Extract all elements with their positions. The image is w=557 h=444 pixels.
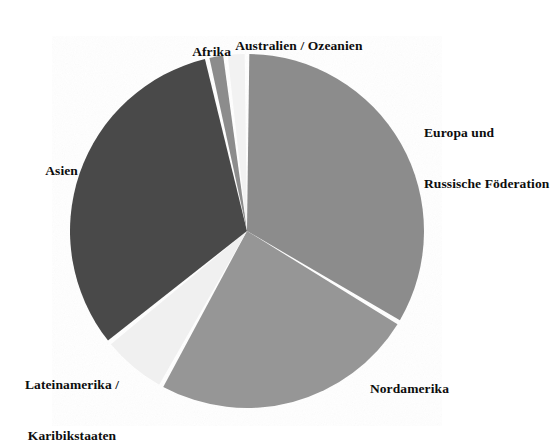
pie-label-nordamerika-text: Nordamerika xyxy=(370,381,449,396)
pie-label-europa-line-1: Europa und xyxy=(424,124,556,141)
pie-label-australien-ozeanien-text: Australien / Ozeanien xyxy=(235,38,362,53)
pie-label-lateinamerika-karibikstaaten: Lateinamerika / Karibikstaaten xyxy=(2,341,142,444)
pie-label-asien: Asien xyxy=(14,145,96,197)
pie-label-europa-russische-foederation: Europa und Russische Föderation xyxy=(424,89,556,227)
pie-label-nordamerika: Nordamerika xyxy=(356,363,476,415)
pie-label-australien-ozeanien: Australien / Ozeanien xyxy=(222,20,402,72)
pie-label-lateinamerika-line-2: Karibikstaaten xyxy=(2,427,142,444)
pie-label-europa-line-2: Russische Föderation xyxy=(424,175,556,192)
pie-label-asien-text: Asien xyxy=(45,163,78,178)
pie-label-lateinamerika-line-1: Lateinamerika / xyxy=(2,376,142,393)
